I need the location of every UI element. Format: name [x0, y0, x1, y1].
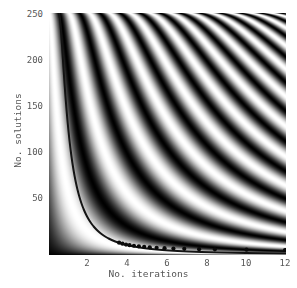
y-axis-label: No. solutions	[12, 81, 23, 181]
x-tick-label-4: 4	[112, 258, 142, 268]
x-tick-label-6: 6	[152, 258, 182, 268]
y-tick-label-50: 50	[9, 193, 43, 203]
y-tick-label-200: 200	[9, 55, 43, 65]
x-tick-label-2: 2	[72, 258, 102, 268]
x-axis-label: No. iterations	[0, 268, 297, 279]
y-tick-label-250: 250	[9, 9, 43, 19]
plot-area	[49, 13, 286, 255]
x-tick-label-12: 12	[270, 258, 297, 268]
x-tick-label-8: 8	[192, 258, 222, 268]
x-tick-label-10: 10	[231, 258, 261, 268]
grover-density-figure: 250 200 150 100 50 2 4 6 8 10 12 No. ite…	[0, 0, 297, 288]
optimal-iteration-overlay	[49, 13, 286, 255]
